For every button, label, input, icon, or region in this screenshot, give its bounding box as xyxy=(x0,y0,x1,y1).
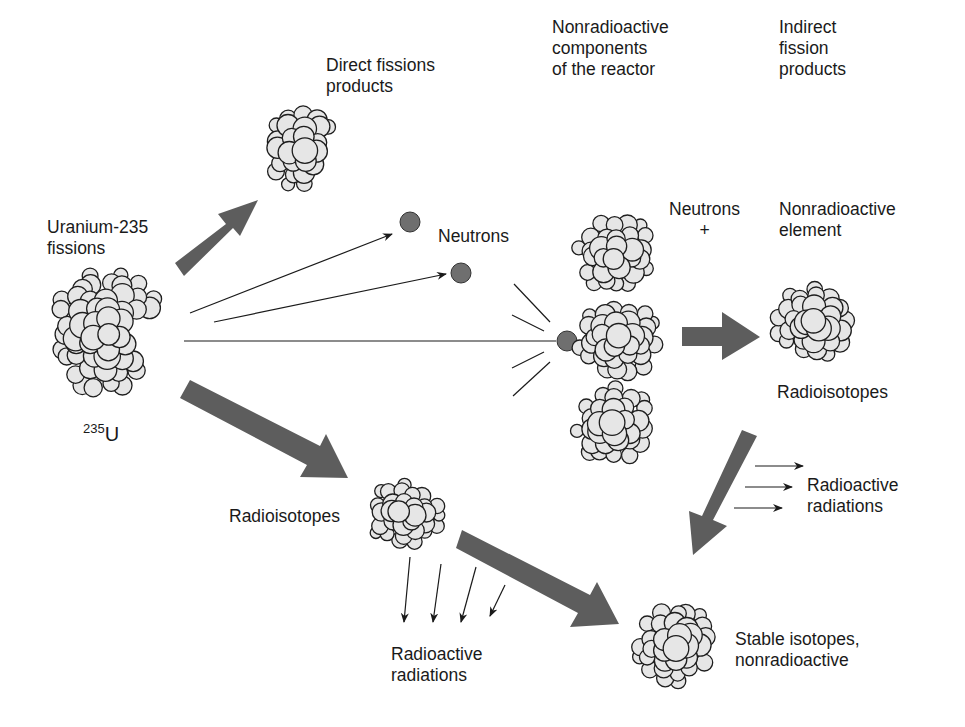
stable-isotope-nucleus xyxy=(632,604,715,689)
label-neutrons-plus: Neutrons + xyxy=(669,199,740,241)
label-nonradioactive-element: Nonradioactive element xyxy=(779,199,896,241)
reactor-component-nucleus-middle xyxy=(572,302,663,381)
label-nonradioactive-components: Nonradioactive components of the reactor xyxy=(552,17,669,80)
label-isotope-u235: 235U xyxy=(83,418,119,445)
arrow-to-direct-products xyxy=(175,200,258,276)
radioisotope-nucleus-left xyxy=(370,478,445,549)
uranium-235-nucleus xyxy=(52,268,162,397)
label-uranium-fissions: Uranium-235 fissions xyxy=(47,217,148,259)
label-stable-isotopes: Stable isotopes, nonradioactive xyxy=(735,629,860,671)
neutron-paths xyxy=(184,234,556,396)
label-radioactive-radiations-right: Radioactive radiations xyxy=(807,475,898,517)
arrow-to-radioisotopes-right xyxy=(682,312,760,360)
arrow-down-to-stable xyxy=(689,430,757,555)
label-radioisotopes-right: Radioisotopes xyxy=(777,382,888,403)
label-radioactive-radiations-bottom: Radioactive radiations xyxy=(391,644,482,686)
label-indirect-fission-products: Indirect fission products xyxy=(779,17,846,80)
radioisotope-nucleus-right xyxy=(770,282,854,362)
label-neutrons: Neutrons xyxy=(438,226,509,247)
neutron-2 xyxy=(451,263,471,283)
arrow-to-radioisotopes-left xyxy=(180,380,348,478)
neutron-1 xyxy=(400,212,420,232)
radiation-arrows-right xyxy=(734,466,803,508)
nuclei xyxy=(52,106,854,689)
direct-fission-product-nucleus xyxy=(267,106,336,192)
reactor-component-nucleus-bottom xyxy=(571,381,653,464)
isotope-mass-number: 235 xyxy=(83,421,105,436)
diagram-graphics xyxy=(0,0,965,727)
isotope-symbol: U xyxy=(105,423,119,445)
label-radioisotopes-left: Radioisotopes xyxy=(229,506,340,527)
process-arrows xyxy=(175,200,760,627)
radiation-arrows-bottom xyxy=(404,557,505,622)
fission-diagram: Direct fissions products Nonradioactive … xyxy=(0,0,965,727)
arrow-to-stable-isotopes xyxy=(456,530,619,627)
reactor-component-nucleus-top xyxy=(572,215,654,291)
label-direct-fission-products: Direct fissions products xyxy=(326,55,435,97)
